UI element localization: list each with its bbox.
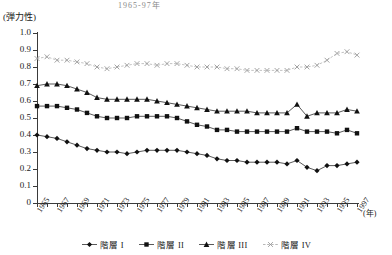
data-series <box>34 81 360 119</box>
plot-area: 1.00.90.80.70.60.50.40.30.20.10 19651967… <box>37 33 357 203</box>
cross-marker <box>165 61 170 66</box>
legend-item[interactable]: 階層 IV <box>262 238 312 250</box>
y-axis-unit-label: (弾力性) <box>3 10 36 23</box>
triangle-marker <box>74 86 80 91</box>
chart-legend: 階層 I階層 II階層 III階層 IV <box>0 238 392 250</box>
diamond-marker <box>124 151 129 156</box>
square-marker <box>35 104 39 108</box>
y-axis-tick-label: 0.6 <box>1 95 31 105</box>
y-axis-tick-label: 0.7 <box>1 78 31 88</box>
diamond-marker <box>324 163 329 168</box>
square-marker <box>195 123 199 127</box>
diamond-marker <box>94 148 99 153</box>
square-marker <box>295 126 299 130</box>
square-marker <box>155 114 159 118</box>
data-series <box>35 49 360 73</box>
square-marker <box>305 129 309 133</box>
data-series <box>34 132 359 173</box>
diamond-marker <box>344 161 349 166</box>
square-marker <box>255 129 259 133</box>
diamond-marker <box>64 139 69 144</box>
diamond-marker <box>244 160 249 165</box>
y-axis-tick-label: 0.5 <box>1 112 31 122</box>
chart-top-title: 1965-97年 <box>118 0 161 10</box>
diamond-marker <box>214 156 219 161</box>
square-marker <box>275 129 279 133</box>
y-axis-tick-label: 0.3 <box>1 146 31 156</box>
square-marker <box>245 129 249 133</box>
square-marker <box>55 104 59 108</box>
legend-label: 階層 II <box>157 238 184 250</box>
diamond-marker <box>114 149 119 154</box>
series-layer <box>37 33 357 203</box>
diamond-marker <box>314 168 319 173</box>
square-marker <box>215 128 219 132</box>
diamond-marker <box>334 163 339 168</box>
cross-marker <box>295 65 300 70</box>
legend-item[interactable]: 階層 III <box>198 238 247 250</box>
diamond-marker <box>234 158 239 163</box>
square-marker <box>135 114 139 118</box>
square-marker <box>205 124 209 128</box>
cross-marker <box>345 49 350 54</box>
square-marker <box>235 129 239 133</box>
chart-container: 1965-97年 (弾力性) (年) 1.00.90.80.70.60.50.4… <box>0 0 392 255</box>
cross-marker <box>145 61 150 66</box>
triangle-marker <box>294 101 300 106</box>
diamond-marker <box>294 158 299 163</box>
legend-label: 階層 IV <box>281 238 312 250</box>
cross-marker <box>275 68 280 73</box>
square-marker <box>65 106 69 110</box>
diamond-marker <box>84 146 89 151</box>
cross-marker <box>255 68 260 73</box>
square-marker <box>85 111 89 115</box>
legend-item[interactable]: 階層 I <box>81 238 124 250</box>
diamond-marker <box>104 149 109 154</box>
diamond-marker <box>34 132 39 137</box>
square-marker <box>138 240 155 249</box>
triangle-marker <box>344 107 350 112</box>
square-marker <box>145 114 149 118</box>
square-marker <box>185 119 189 123</box>
square-marker <box>325 129 329 133</box>
diamond-marker <box>164 148 169 153</box>
diamond-marker <box>184 149 189 154</box>
cross-marker <box>315 63 320 68</box>
triangle-marker <box>94 95 100 100</box>
y-axis-tick-label: 0.2 <box>1 163 31 173</box>
diamond-marker <box>254 160 259 165</box>
square-marker <box>45 104 49 108</box>
diamond-marker <box>134 149 139 154</box>
square-marker <box>105 116 109 120</box>
square-marker <box>225 128 229 132</box>
diamond-marker <box>154 148 159 153</box>
diamond-marker <box>274 160 279 165</box>
diamond-marker <box>354 160 359 165</box>
legend-item[interactable]: 階層 II <box>138 238 184 250</box>
diamond-marker <box>264 160 269 165</box>
square-marker <box>165 114 169 118</box>
cross-marker <box>355 53 360 58</box>
diamond-marker <box>224 158 229 163</box>
square-marker <box>75 107 79 111</box>
diamond-marker <box>284 161 289 166</box>
square-marker <box>175 116 179 120</box>
diamond-marker <box>74 143 79 148</box>
y-axis-tick-label: 0.9 <box>1 44 31 54</box>
diamond-marker <box>81 240 98 249</box>
square-marker <box>125 116 129 120</box>
cross-marker <box>185 63 190 68</box>
cross-marker <box>262 240 279 249</box>
diamond-marker <box>87 241 92 246</box>
diamond-marker <box>144 148 149 153</box>
square-marker <box>345 128 349 132</box>
y-axis-tick-label: 0.8 <box>1 61 31 71</box>
diamond-marker <box>194 151 199 156</box>
square-marker <box>115 116 119 120</box>
legend-label: 階層 I <box>100 238 124 250</box>
diamond-marker <box>54 136 59 141</box>
square-marker <box>285 129 289 133</box>
diamond-marker <box>174 148 179 153</box>
square-marker <box>144 242 148 246</box>
y-axis-tick-label: 0.1 <box>1 180 31 190</box>
